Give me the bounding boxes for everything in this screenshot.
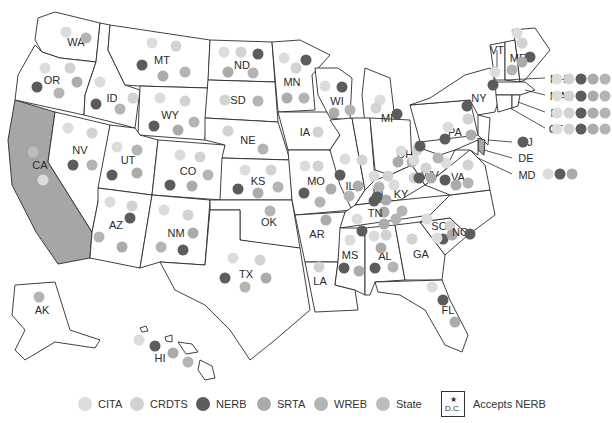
srta-dot-icon — [187, 181, 198, 192]
wreb-dot-icon — [345, 105, 356, 116]
srta-dot-icon — [588, 108, 599, 119]
state-label-ar: AR — [309, 229, 324, 240]
nerb-dot-icon — [414, 173, 425, 184]
crdts-dot-icon — [130, 397, 144, 411]
state-hi-island-3[interactable] — [178, 342, 198, 354]
nerb-dot-icon — [415, 141, 426, 152]
nerb-dot-icon — [462, 101, 473, 112]
wreb-dot-icon — [507, 65, 518, 76]
state-label-md: MD — [518, 170, 535, 181]
srta-dot-icon — [393, 157, 404, 168]
wreb-dot-icon — [248, 68, 259, 79]
legend-item-nerb: NERB — [196, 397, 247, 411]
srta-dot-icon — [588, 74, 599, 85]
srta-dot-icon — [158, 71, 169, 82]
state-label-sd: SD — [230, 95, 245, 106]
state-label-co: CO — [180, 166, 197, 177]
crdts-dot-icon — [127, 201, 138, 212]
nerb-dot-icon — [178, 245, 189, 256]
cita-dot-icon — [543, 169, 554, 180]
cita-dot-icon — [63, 123, 74, 134]
nerb-dot-icon — [299, 188, 310, 199]
nerb-dot-icon — [91, 99, 102, 110]
nerb-dot-icon — [196, 397, 210, 411]
legend: CITA CRDTS NERB SRTA WREB State ★ D.C. A… — [0, 385, 612, 423]
legend-item-dc: ★ D.C. Accepts NERB — [441, 391, 546, 417]
crdts-dot-icon — [407, 234, 418, 245]
state-ma[interactable] — [495, 82, 535, 95]
cita-dot-icon — [552, 74, 563, 85]
state-label-mo: MO — [307, 176, 325, 187]
wreb-dot-icon — [94, 232, 105, 243]
srta-dot-icon — [376, 243, 387, 254]
cita-dot-icon — [134, 335, 145, 346]
star-icon: ★ — [442, 395, 464, 404]
state-label-fl: FL — [442, 305, 455, 316]
wreb-dot-icon — [463, 178, 474, 189]
cita-dot-icon — [396, 146, 407, 157]
wreb-dot-icon — [203, 170, 214, 181]
state-de[interactable] — [478, 138, 485, 155]
srta-dot-icon — [188, 228, 199, 239]
nerb-dot-icon — [150, 341, 161, 352]
srta-dot-icon — [282, 93, 293, 104]
cita-dot-icon — [345, 235, 356, 246]
cita-dot-icon — [40, 63, 51, 74]
state-label-or: OR — [44, 75, 61, 86]
legend-label: CRDTS — [150, 398, 188, 410]
srta-dot-icon — [72, 77, 83, 88]
nerb-dot-icon — [576, 74, 587, 85]
wreb-dot-icon — [54, 88, 65, 99]
wreb-dot-icon — [132, 145, 143, 156]
dc-accepts-label: Accepts NERB — [473, 398, 546, 410]
crdts-dot-icon — [564, 108, 575, 119]
cita-dot-icon — [320, 81, 331, 92]
crdts-dot-icon — [313, 161, 324, 172]
state-label-ia: IA — [300, 127, 310, 138]
legend-item-srta: SRTA — [257, 397, 305, 411]
crdts-dot-icon — [314, 262, 325, 273]
srta-dot-icon — [466, 130, 477, 141]
nerb-dot-icon — [440, 134, 451, 145]
cita-dot-icon — [38, 175, 49, 186]
legend-label: WREB — [334, 398, 367, 410]
nerb-dot-icon — [253, 49, 264, 60]
state-label-ny: NY — [471, 93, 486, 104]
crdts-dot-icon — [564, 124, 575, 135]
state-ak[interactable] — [12, 282, 100, 360]
nerb-dot-icon — [165, 180, 176, 191]
legend-item-crdts: CRDTS — [130, 397, 188, 411]
cita-dot-icon — [240, 165, 251, 176]
wreb-dot-icon — [156, 242, 167, 253]
cita-dot-icon — [552, 124, 563, 135]
nerb-dot-icon — [518, 137, 529, 148]
wreb-dot-icon — [600, 108, 611, 119]
wreb-dot-icon — [388, 262, 399, 273]
state-hi-island-1[interactable] — [140, 326, 148, 332]
cita-dot-icon — [427, 282, 438, 293]
srta-dot-icon — [588, 91, 599, 102]
nerb-dot-icon — [438, 295, 449, 306]
state-hi-island-2[interactable] — [165, 335, 172, 342]
crdts-dot-icon — [236, 47, 247, 58]
state-ri[interactable] — [512, 95, 520, 108]
wreb-dot-icon — [81, 33, 92, 44]
cita-dot-icon — [409, 155, 420, 166]
cita-dot-icon — [175, 150, 186, 161]
wreb-dot-icon — [315, 197, 326, 208]
cita-dot-icon — [552, 108, 563, 119]
srta-dot-icon — [517, 57, 528, 68]
nerb-dot-icon — [337, 82, 348, 93]
crdts-dot-icon — [463, 114, 474, 125]
state-ct[interactable] — [496, 95, 512, 112]
state-oh[interactable] — [370, 118, 412, 175]
cita-dot-icon — [389, 180, 400, 191]
nerb-dot-icon — [465, 229, 476, 240]
nerb-dot-icon — [370, 263, 381, 274]
nerb-dot-icon — [107, 170, 118, 181]
state-hi-island-4[interactable] — [198, 360, 215, 380]
srta-dot-icon — [451, 180, 462, 191]
crdts-dot-icon — [171, 41, 182, 52]
crdts-dot-icon — [223, 126, 234, 137]
wreb-dot-icon — [600, 91, 611, 102]
